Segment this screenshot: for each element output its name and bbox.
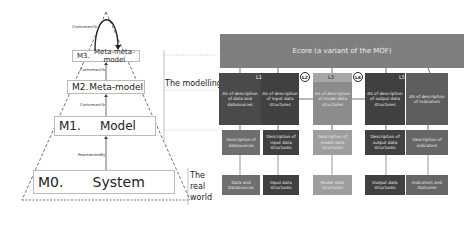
model-label: Description of output data structures — [366, 134, 404, 151]
system-l5a: Output data structures — [365, 175, 405, 195]
system-label: Model data structures — [314, 180, 351, 191]
level-name: Meta-model — [88, 82, 144, 92]
metamodel-label: AS of description of data and datasource… — [220, 91, 260, 108]
level-code: M3. — [77, 52, 90, 60]
ecore-label: Ecore (a variant of the MOF) — [293, 47, 392, 55]
metamodel-l1b: AS of description of input data structur… — [261, 73, 299, 125]
system-l1a: Data and Datasources — [222, 175, 260, 195]
level-m1-model: M1. Model — [54, 116, 156, 136]
system-label: Indicators and Outcome — [407, 180, 447, 191]
level-m3-meta-meta-model: M3. Meta-meta-model — [72, 50, 140, 62]
real-world-label: The real world — [190, 170, 220, 203]
layer-l3-label: L3 — [328, 74, 334, 80]
layer-l1-label: L1 — [256, 74, 262, 80]
level-code: M1. — [59, 119, 81, 133]
layer-l5-label: L5 — [399, 74, 405, 80]
metamodel-l1a: AS of description of data and datasource… — [219, 73, 261, 125]
represented-by-label: RepresentedBy — [78, 153, 105, 157]
model-l5b: Description of indicators — [406, 130, 448, 155]
conformant-to-label: ConformantTo — [80, 68, 105, 72]
ecore-box: Ecore (a variant of the MOF) — [220, 34, 464, 68]
system-l1b: Input data structures — [263, 175, 299, 195]
metamodel-l5b: AS of description of indicators — [406, 73, 448, 125]
system-label: Output data structures — [366, 180, 404, 191]
model-label: Description of input data structures — [264, 134, 298, 151]
level-name: System — [63, 174, 174, 190]
system-label: Data and Datasources — [223, 180, 259, 191]
level-m0-system: M0. System — [33, 170, 175, 194]
model-l1b: Description of input data structures — [263, 130, 299, 155]
layer-l2-badge: L2 — [300, 72, 310, 82]
system-l3: Model data structures — [313, 175, 352, 195]
system-l5b: Indicators and Outcome — [406, 175, 448, 195]
level-name: Model — [81, 119, 155, 133]
level-m2-meta-model: M2. Meta-model — [67, 80, 145, 94]
model-l3: Description of model data structures — [313, 130, 352, 155]
model-l1a: Description of datasources — [222, 130, 260, 155]
model-label: Description of indicators — [407, 137, 447, 148]
model-l5a: Description of output data structures — [365, 130, 405, 155]
layer-l4-badge: L4 — [353, 72, 363, 82]
level-code: M0. — [38, 174, 63, 190]
metamodel-label: AS of description of input data structur… — [262, 91, 298, 108]
level-code: M2. — [72, 82, 88, 92]
system-label: Input data structures — [264, 180, 298, 191]
metamodel-label: AS of description of output data structu… — [366, 91, 404, 108]
metamodel-label: AS of description of model data structur… — [314, 91, 351, 108]
metamodel-l5a: AS of description of output data structu… — [365, 73, 405, 125]
metamodel-label: AS of description of indicators — [407, 94, 447, 105]
conformant-to-label: ConformantTo — [72, 25, 97, 29]
model-label: Description of model data structures — [314, 134, 351, 151]
level-name: Meta-meta-model — [90, 48, 139, 64]
conformant-to-label: ConformantTo — [80, 103, 105, 107]
model-label: Description of datasources — [223, 137, 259, 148]
